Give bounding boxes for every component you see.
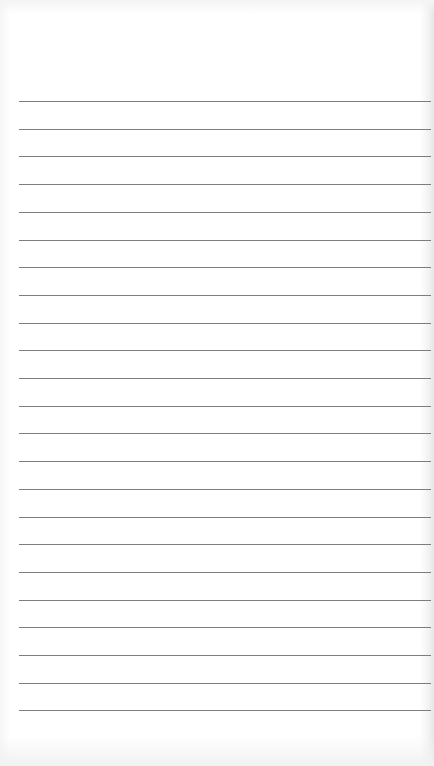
ruled-line	[19, 240, 431, 241]
ruled-line	[19, 600, 431, 601]
ruled-line	[19, 627, 431, 628]
ruled-line	[19, 433, 431, 434]
ruled-line	[19, 156, 431, 157]
ruled-line	[19, 129, 431, 130]
lined-paper	[0, 0, 434, 766]
ruled-line	[19, 378, 431, 379]
ruled-line	[19, 323, 431, 324]
ruled-line	[19, 406, 431, 407]
ruled-line	[19, 572, 431, 573]
ruled-line	[19, 489, 431, 490]
ruled-line	[19, 683, 431, 684]
ruled-line	[19, 101, 431, 102]
ruled-line	[19, 295, 431, 296]
ruled-line	[19, 350, 431, 351]
ruled-line	[19, 655, 431, 656]
ruled-line	[19, 267, 431, 268]
ruled-line	[19, 212, 431, 213]
ruled-line	[19, 710, 431, 711]
ruled-line	[19, 461, 431, 462]
ruled-line	[19, 517, 431, 518]
ruled-line	[19, 544, 431, 545]
ruled-line	[19, 184, 431, 185]
